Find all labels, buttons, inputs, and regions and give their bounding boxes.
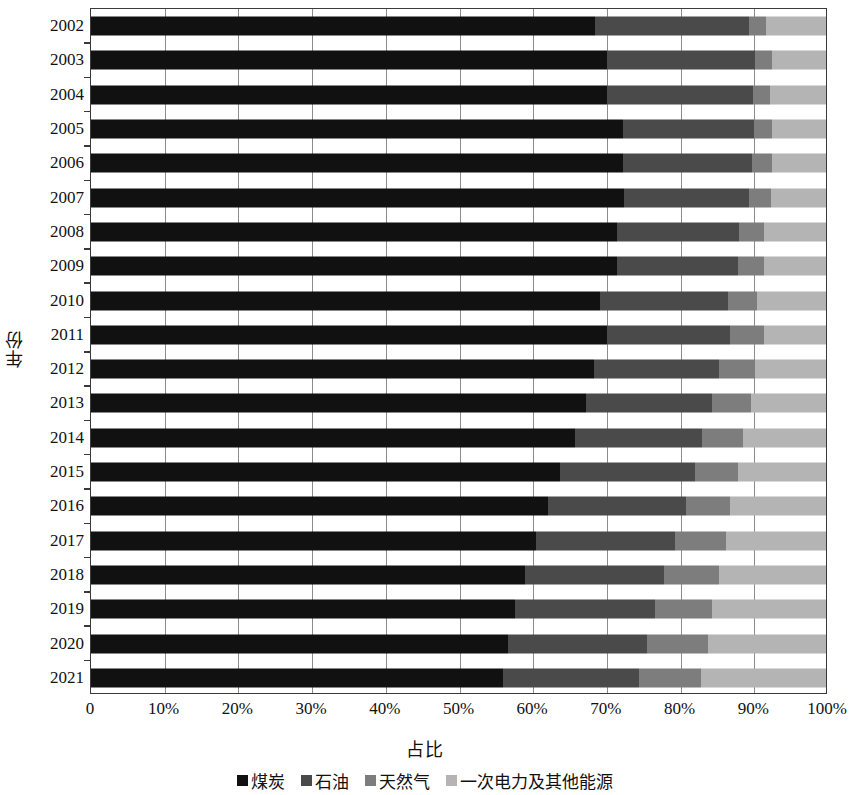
bar-segment-gas[interactable]: [749, 188, 771, 207]
bar-segment-oil[interactable]: [508, 634, 647, 653]
bar-segment-oil[interactable]: [624, 188, 749, 207]
bar-segment-other[interactable]: [764, 325, 826, 344]
bar-segment-oil[interactable]: [623, 154, 752, 173]
bar-segment-coal[interactable]: [91, 428, 575, 447]
bar-segment-coal[interactable]: [91, 120, 623, 139]
bar-segment-oil[interactable]: [617, 257, 738, 276]
bar-segment-other[interactable]: [712, 600, 826, 619]
bar-segment-coal[interactable]: [91, 394, 586, 413]
bar-segment-coal[interactable]: [91, 600, 515, 619]
bar-segment-other[interactable]: [743, 428, 826, 447]
stacked-bar[interactable]: [91, 257, 826, 276]
bar-segment-coal[interactable]: [91, 360, 594, 379]
bar-segment-other[interactable]: [726, 531, 826, 550]
stacked-bar[interactable]: [91, 463, 826, 482]
bar-segment-oil[interactable]: [607, 325, 730, 344]
bar-segment-coal[interactable]: [91, 634, 508, 653]
bar-segment-gas[interactable]: [639, 668, 701, 687]
bar-segment-gas[interactable]: [728, 291, 757, 310]
stacked-bar[interactable]: [91, 154, 826, 173]
bar-segment-other[interactable]: [772, 120, 826, 139]
stacked-bar[interactable]: [91, 17, 826, 36]
legend-item-coal[interactable]: 煤炭: [237, 768, 285, 793]
stacked-bar[interactable]: [91, 360, 826, 379]
bar-segment-other[interactable]: [738, 463, 826, 482]
bar-segment-other[interactable]: [755, 360, 826, 379]
stacked-bar[interactable]: [91, 120, 826, 139]
legend-item-other[interactable]: 一次电力及其他能源: [446, 768, 613, 793]
stacked-bar[interactable]: [91, 188, 826, 207]
bar-segment-other[interactable]: [770, 85, 826, 104]
bar-segment-coal[interactable]: [91, 257, 617, 276]
stacked-bar[interactable]: [91, 634, 826, 653]
stacked-bar[interactable]: [91, 565, 826, 584]
bar-segment-coal[interactable]: [91, 17, 595, 36]
bar-segment-gas[interactable]: [739, 222, 764, 241]
legend-item-oil[interactable]: 石油: [301, 768, 349, 793]
bar-segment-coal[interactable]: [91, 531, 536, 550]
stacked-bar[interactable]: [91, 497, 826, 516]
bar-segment-gas[interactable]: [712, 394, 751, 413]
stacked-bar[interactable]: [91, 668, 826, 687]
bar-segment-coal[interactable]: [91, 291, 600, 310]
bar-segment-coal[interactable]: [91, 188, 624, 207]
bar-segment-gas[interactable]: [655, 600, 712, 619]
bar-segment-coal[interactable]: [91, 51, 607, 70]
bar-segment-oil[interactable]: [586, 394, 712, 413]
bar-segment-other[interactable]: [772, 51, 826, 70]
bar-segment-oil[interactable]: [575, 428, 702, 447]
bar-segment-other[interactable]: [701, 668, 826, 687]
stacked-bar[interactable]: [91, 291, 826, 310]
bar-segment-gas[interactable]: [702, 428, 743, 447]
bar-segment-gas[interactable]: [730, 325, 764, 344]
bar-segment-coal[interactable]: [91, 565, 525, 584]
bar-segment-gas[interactable]: [675, 531, 726, 550]
bar-segment-gas[interactable]: [749, 17, 766, 36]
bar-segment-other[interactable]: [772, 154, 826, 173]
stacked-bar[interactable]: [91, 51, 826, 70]
bar-segment-other[interactable]: [751, 394, 826, 413]
stacked-bar[interactable]: [91, 325, 826, 344]
bar-segment-gas[interactable]: [738, 257, 764, 276]
bar-segment-oil[interactable]: [548, 497, 685, 516]
bar-segment-other[interactable]: [764, 257, 826, 276]
bar-segment-coal[interactable]: [91, 463, 560, 482]
stacked-bar[interactable]: [91, 85, 826, 104]
bar-segment-other[interactable]: [719, 565, 826, 584]
bar-segment-coal[interactable]: [91, 497, 548, 516]
bar-segment-coal[interactable]: [91, 222, 617, 241]
stacked-bar[interactable]: [91, 531, 826, 550]
bar-segment-oil[interactable]: [515, 600, 655, 619]
bar-segment-oil[interactable]: [607, 51, 755, 70]
bar-segment-gas[interactable]: [686, 497, 731, 516]
bar-segment-other[interactable]: [730, 497, 826, 516]
bar-segment-coal[interactable]: [91, 154, 623, 173]
bar-segment-gas[interactable]: [752, 154, 772, 173]
bar-segment-oil[interactable]: [503, 668, 639, 687]
bar-segment-other[interactable]: [764, 222, 826, 241]
bar-segment-oil[interactable]: [594, 360, 719, 379]
bar-segment-coal[interactable]: [91, 325, 607, 344]
bar-segment-oil[interactable]: [623, 120, 754, 139]
bar-segment-oil[interactable]: [617, 222, 740, 241]
bar-segment-gas[interactable]: [647, 634, 707, 653]
stacked-bar[interactable]: [91, 394, 826, 413]
bar-segment-oil[interactable]: [595, 17, 749, 36]
bar-segment-gas[interactable]: [753, 85, 770, 104]
bar-segment-other[interactable]: [708, 634, 826, 653]
bar-segment-other[interactable]: [757, 291, 826, 310]
bar-segment-gas[interactable]: [755, 51, 772, 70]
bar-segment-oil[interactable]: [600, 291, 728, 310]
bar-segment-gas[interactable]: [695, 463, 738, 482]
legend-item-gas[interactable]: 天然气: [365, 768, 430, 793]
bar-segment-gas[interactable]: [664, 565, 720, 584]
bar-segment-other[interactable]: [766, 17, 826, 36]
bar-segment-gas[interactable]: [754, 120, 772, 139]
bar-segment-coal[interactable]: [91, 85, 607, 104]
bar-segment-other[interactable]: [771, 188, 826, 207]
bar-segment-coal[interactable]: [91, 668, 503, 687]
bar-segment-gas[interactable]: [719, 360, 754, 379]
stacked-bar[interactable]: [91, 428, 826, 447]
bar-segment-oil[interactable]: [560, 463, 695, 482]
stacked-bar[interactable]: [91, 600, 826, 619]
